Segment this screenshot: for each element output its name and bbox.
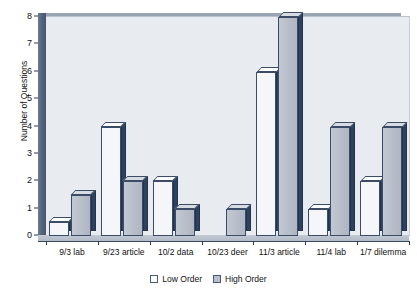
bar-front-face <box>256 72 276 236</box>
y-axis-tick-label: 5 <box>27 93 32 103</box>
x-axis-tick-labels: 9/3 lab9/23 article10/2 data10/23 deer11… <box>38 247 413 263</box>
bar[interactable] <box>330 127 350 237</box>
x-axis-tick-mark <box>150 241 151 245</box>
bar-group <box>357 17 409 236</box>
bar-group <box>150 17 202 236</box>
bar-group <box>98 17 150 236</box>
x-axis-tick-label: 1/7 dilemma <box>360 247 406 257</box>
bar[interactable] <box>175 209 195 236</box>
legend-entry[interactable]: Low Order <box>150 274 202 284</box>
legend-swatch-icon <box>213 275 221 283</box>
bar-side-face <box>91 190 96 231</box>
bar[interactable] <box>382 127 402 237</box>
x-axis-tick-label: 9/3 lab <box>59 247 85 257</box>
bar-front-face <box>308 209 328 236</box>
bar-front-face <box>71 195 91 236</box>
x-axis-tick-marks <box>38 241 409 246</box>
x-axis-tick-label: 9/23 article <box>103 247 145 257</box>
bar[interactable] <box>278 17 298 236</box>
legend-swatch-icon <box>150 275 158 283</box>
bar[interactable] <box>226 209 246 236</box>
bar-front-face <box>360 181 380 236</box>
x-axis-tick-mark <box>305 241 306 245</box>
y-axis-tick-label: 1 <box>27 203 32 213</box>
x-axis-tick-mark <box>409 241 410 245</box>
bar-side-face <box>143 176 148 231</box>
x-axis-tick-label: 10/2 data <box>158 247 193 257</box>
bar[interactable] <box>153 181 173 236</box>
bar-front-face <box>382 127 402 237</box>
bar-front-face <box>123 181 143 236</box>
bar-front-face <box>278 17 298 236</box>
bar-front-face <box>330 127 350 237</box>
x-axis-tick-mark <box>202 241 203 245</box>
bar-group <box>253 17 305 236</box>
bar[interactable] <box>49 222 69 236</box>
x-axis-tick-mark <box>46 241 47 245</box>
bar-chart: Number of Questions 012345678 9/3 lab9/2… <box>0 0 417 292</box>
bar[interactable] <box>101 127 121 237</box>
bar-top-face <box>382 122 407 127</box>
x-axis-tick-mark <box>98 241 99 245</box>
bar[interactable] <box>256 72 276 236</box>
bar-front-face <box>175 209 195 236</box>
bar[interactable] <box>71 195 91 236</box>
bar-top-face <box>330 122 355 127</box>
bar[interactable] <box>123 181 143 236</box>
y-axis-tick-labels: 012345678 <box>14 0 38 242</box>
x-axis-tick-mark <box>253 241 254 245</box>
bar-front-face <box>101 127 121 237</box>
legend-label: Low Order <box>162 274 202 284</box>
bar-side-face <box>298 12 303 231</box>
y-axis-tick-label: 3 <box>27 148 32 158</box>
y-axis-tick-label: 4 <box>27 121 32 131</box>
y-axis-tick-label: 0 <box>27 230 32 240</box>
plot-area <box>38 13 409 242</box>
y-axis-tick-label: 7 <box>27 38 32 48</box>
bar[interactable] <box>308 209 328 236</box>
bar-side-face <box>402 122 407 232</box>
bar-group <box>46 17 98 236</box>
bar-side-face <box>350 122 355 232</box>
bar-front-face <box>49 222 69 236</box>
x-axis-tick-mark <box>357 241 358 245</box>
chart-legend: Low OrderHigh Order <box>0 272 417 286</box>
bar-front-face <box>153 181 173 236</box>
bar[interactable] <box>360 181 380 236</box>
bars-layer <box>46 16 409 242</box>
y-axis-tick-label: 2 <box>27 175 32 185</box>
x-axis-tick-label: 10/23 deer <box>207 247 248 257</box>
x-axis-tick-label: 11/3 article <box>259 247 300 257</box>
y-axis-tick-label: 6 <box>27 66 32 76</box>
y-axis-tick-label: 8 <box>27 11 32 21</box>
bar-group <box>305 17 357 236</box>
legend-entry[interactable]: High Order <box>213 274 267 284</box>
x-axis-tick-label: 11/4 lab <box>316 247 346 257</box>
bar-front-face <box>226 209 246 236</box>
plot-left-wall <box>38 13 46 235</box>
legend-label: High Order <box>225 274 267 284</box>
bar-group <box>202 17 254 236</box>
